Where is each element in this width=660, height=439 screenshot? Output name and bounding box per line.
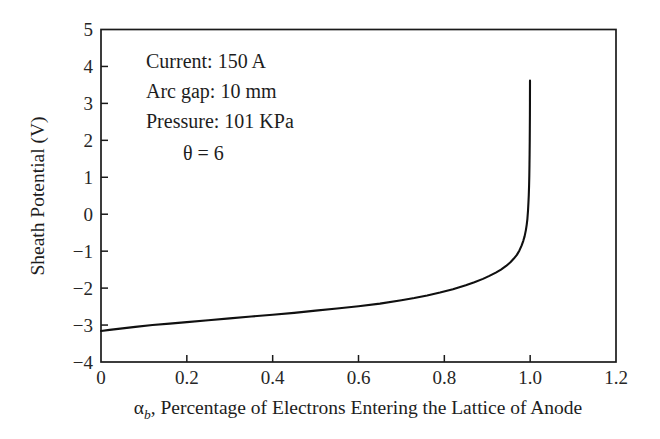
y-tick-label: −3 bbox=[73, 315, 93, 336]
annotation-arc-gap: Arc gap: 10 mm bbox=[146, 80, 277, 103]
annotation-current: Current: 150 A bbox=[146, 50, 267, 72]
x-tick-label: 1.2 bbox=[604, 367, 628, 388]
x-tick-label: 0.2 bbox=[175, 367, 199, 388]
y-axis-title-text: Sheath Potential (V) bbox=[27, 116, 49, 275]
y-tick-label: 5 bbox=[84, 19, 94, 40]
y-tick-label: 3 bbox=[84, 93, 94, 114]
y-tick-label: −1 bbox=[73, 241, 93, 262]
y-axis-title: Sheath Potential (V) bbox=[27, 116, 49, 275]
y-tick-label: 4 bbox=[84, 56, 94, 77]
x-tick-label: 1.0 bbox=[518, 367, 542, 388]
y-tick-label: 0 bbox=[84, 204, 94, 225]
x-tick-label: 0.8 bbox=[432, 367, 456, 388]
y-tick-label: −4 bbox=[73, 352, 94, 373]
y-tick-label: −2 bbox=[73, 278, 93, 299]
x-tick-label: 0.4 bbox=[261, 367, 285, 388]
x-axis-title-rest: , Percentage of Electrons Entering the L… bbox=[151, 397, 583, 418]
annotation-pressure: Pressure: 101 KPa bbox=[146, 110, 294, 132]
x-tick-label: 0 bbox=[96, 367, 106, 388]
figure-container: 543210−1−2−3−4 00.20.40.60.81.01.2 Sheat… bbox=[0, 0, 660, 439]
sheath-potential-chart: 543210−1−2−3−4 00.20.40.60.81.01.2 Sheat… bbox=[0, 0, 660, 439]
x-axis-title-symbol: α bbox=[134, 397, 144, 418]
annotation-theta: θ = 6 bbox=[183, 142, 224, 164]
y-tick-label: 2 bbox=[84, 130, 94, 151]
x-tick-label: 0.6 bbox=[347, 367, 371, 388]
y-tick-label: 1 bbox=[84, 167, 94, 188]
